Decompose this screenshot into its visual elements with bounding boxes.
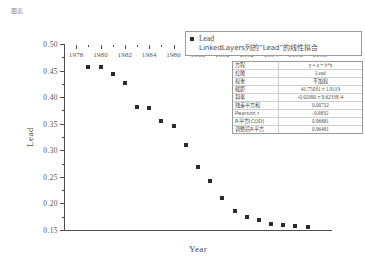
y-tick (60, 71, 64, 72)
y-tick (60, 97, 64, 98)
x-tick-label: 1978 (69, 51, 84, 59)
y-tick-label: 0.35 (43, 119, 58, 128)
x-tick-label: 1986 (166, 51, 181, 59)
stats-key: 调整后R平方 (233, 126, 279, 134)
stats-row: 权重不加权 (233, 78, 362, 86)
x-tick-minor (88, 45, 89, 47)
data-point (159, 119, 163, 123)
x-tick-minor (113, 45, 114, 47)
legend-marker-square-icon (190, 37, 194, 41)
chart-root: 图表 0.500.450.400.350.300.250.200.15 1978… (0, 0, 365, 276)
stats-value: y = a + b*x (279, 62, 363, 70)
y-axis-line (64, 44, 65, 230)
y-tick-minor (62, 217, 64, 218)
legend-label-fit: LinkedLayers列的“Lead”的线性拟合 (199, 44, 318, 54)
stats-value: 0.00722 (279, 102, 363, 110)
data-point (269, 222, 273, 226)
legend-label-series: Lead (199, 34, 318, 44)
data-point (111, 72, 115, 76)
x-tick (174, 45, 175, 49)
data-point (233, 209, 237, 213)
y-tick-minor (62, 137, 64, 138)
data-point (245, 215, 249, 219)
y-tick-label: 0.45 (43, 66, 58, 75)
stats-row: 截距41.75031 ± 1.9119 (233, 86, 362, 94)
x-tick (125, 45, 126, 49)
stats-key: R平方(COD) (233, 118, 279, 126)
x-tick-minor (64, 45, 65, 47)
x-tick (101, 45, 102, 49)
data-point (184, 143, 188, 147)
y-tick-minor (62, 164, 64, 165)
y-tick (60, 124, 64, 125)
stats-value: 41.75031 ± 1.9119 (279, 86, 363, 94)
y-tick-label: 0.25 (43, 172, 58, 181)
y-tick-minor (62, 110, 64, 111)
y-tick-label: 0.20 (43, 199, 58, 208)
corner-caption: 图表 (11, 7, 23, 15)
y-tick-label: 0.50 (43, 40, 58, 49)
stats-row: 方程y = a + b*x (233, 62, 362, 70)
legend-texts: Lead LinkedLayers列的“Lead”的线性拟合 (199, 34, 318, 53)
stats-key: 绘图 (233, 70, 279, 78)
stats-row: 残差平方和0.00722 (233, 102, 362, 110)
y-tick-minor (62, 84, 64, 85)
stats-row: 绘图Lead (233, 70, 362, 78)
y-tick (60, 230, 64, 231)
y-axis-title: Lead (25, 127, 35, 147)
stats-value: -0.9832 (279, 110, 363, 118)
data-point (135, 105, 139, 109)
stats-value: 0.96481 (279, 126, 363, 134)
data-point (220, 196, 224, 200)
data-point (208, 179, 212, 183)
stats-key: 截距 (233, 86, 279, 94)
data-point (99, 65, 103, 69)
x-tick-minor (161, 45, 162, 47)
data-point (281, 223, 285, 227)
x-axis-line (64, 230, 332, 231)
y-tick-minor (62, 57, 64, 58)
stats-row: 斜率-0.02090 ± 9.6233E-4 (233, 94, 362, 102)
data-point (172, 124, 176, 128)
legend-row: Lead LinkedLayers列的“Lead”的线性拟合 (190, 34, 358, 53)
stats-value: Lead (279, 70, 363, 78)
x-tick-minor (137, 45, 138, 47)
data-point (257, 218, 261, 222)
data-point (306, 225, 310, 229)
x-tick (76, 45, 77, 49)
stats-value: -0.02090 ± 9.6233E-4 (279, 94, 363, 102)
x-tick-label: 1982 (118, 51, 133, 59)
data-point (293, 224, 297, 228)
y-tick (60, 177, 64, 178)
stats-key: 斜率 (233, 94, 279, 102)
data-point (86, 65, 90, 69)
y-tick-minor (62, 190, 64, 191)
data-point (196, 165, 200, 169)
fit-statistics-table[interactable]: 方程y = a + b*x绘图Lead权重不加权截距41.75031 ± 1.9… (232, 61, 363, 134)
x-tick-label: 1980 (93, 51, 108, 59)
y-tick (60, 203, 64, 204)
y-tick-label: 0.30 (43, 146, 58, 155)
stats-key: 残差平方和 (233, 102, 279, 110)
x-axis-title: Year (189, 244, 207, 254)
stats-key: 方程 (233, 62, 279, 70)
data-point (147, 106, 151, 110)
y-tick (60, 150, 64, 151)
x-tick (149, 45, 150, 49)
stats-row: 调整后R平方0.96481 (233, 126, 362, 134)
data-point (123, 81, 127, 85)
y-tick-label: 0.40 (43, 93, 58, 102)
stats-row: Pearson r-0.9832 (233, 110, 362, 118)
stats-key: Pearson r (233, 110, 279, 118)
stats-value: 不加权 (279, 78, 363, 86)
x-tick-label: 1984 (142, 51, 157, 59)
y-tick-label: 0.15 (43, 226, 58, 235)
stats-value: 0.96681 (279, 118, 363, 126)
stats-row: R平方(COD)0.96681 (233, 118, 362, 126)
stats-key: 权重 (233, 78, 279, 86)
legend-box[interactable]: Lead LinkedLayers列的“Lead”的线性拟合 (185, 31, 362, 56)
